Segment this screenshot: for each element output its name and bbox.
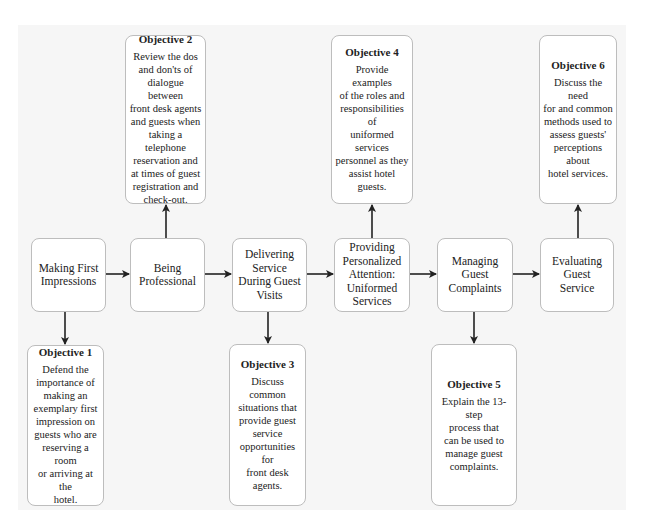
connector-arrows <box>0 0 646 532</box>
